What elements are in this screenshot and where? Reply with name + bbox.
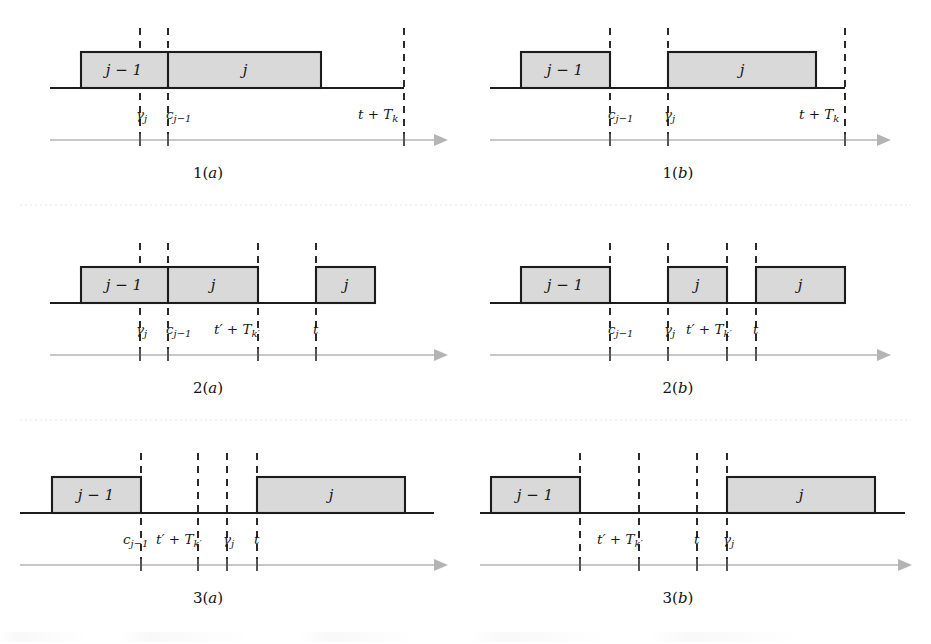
scheduling-timeline-figure: j − 1 j γj cj−1 t + Tk 1(a) j − 1 j cj−1… xyxy=(0,0,931,644)
figure-root: j − 1 j γj cj−1 t + Tk 1(a) j − 1 j cj−1… xyxy=(0,0,931,644)
tick-label-tprime-plus-Tkprime: t′ + Tk′ xyxy=(214,321,260,339)
tick-label-c-j-minus-1: cj−1 xyxy=(608,321,633,339)
panel-2a: j − 1 j j γj cj−1 t′ + Tk′ t 2(a) xyxy=(50,243,448,397)
time-axis-arrowhead xyxy=(898,559,912,571)
tick-label-gamma-j: γj xyxy=(223,531,234,549)
panel-1b: j − 1 j cj−1 γj t + Tk 1(b) xyxy=(490,28,891,182)
panel-caption-1a: 1(a) xyxy=(193,164,223,182)
tick-label-c-j-minus-1: cj−1 xyxy=(123,531,148,549)
time-axis-arrowhead xyxy=(434,134,448,146)
panel-3b: j − 1 j t′ + Tk′ t γj 3(b) xyxy=(480,453,912,607)
time-axis-arrowhead xyxy=(877,134,891,146)
tick-label-t: t xyxy=(694,531,700,547)
tick-label-gamma-j: γj xyxy=(136,106,147,124)
tick-label-gamma-j: γj xyxy=(664,106,675,124)
job-prev-label: j − 1 xyxy=(544,276,583,294)
panel-caption-3b: 3(b) xyxy=(663,589,694,607)
job-prev-label: j − 1 xyxy=(103,61,142,79)
time-axis-arrowhead xyxy=(434,559,448,571)
panel-3a: j − 1 j cj−1 t′ + Tk′ γj t 3(a) xyxy=(20,453,448,607)
panel-caption-2b: 2(b) xyxy=(663,379,694,397)
time-axis-arrowhead xyxy=(877,349,891,361)
tick-label-c-j-minus-1: cj−1 xyxy=(166,321,191,339)
tick-label-tprime-plus-Tkprime: t′ + Tk′ xyxy=(686,321,732,339)
panel-2b: j − 1 j j cj−1 γj t′ + Tk′ t 2(b) xyxy=(490,243,891,397)
job-prev-label: j − 1 xyxy=(103,276,142,294)
tick-label-tprime-plus-Tkprime: t′ + Tk′ xyxy=(156,531,202,549)
tick-label-c-j-minus-1: cj−1 xyxy=(608,106,633,124)
panel-caption-3a: 3(a) xyxy=(193,589,223,607)
tick-label-c-j-minus-1: cj−1 xyxy=(166,106,191,124)
tick-label-gamma-j: γj xyxy=(723,531,734,549)
tick-label-gamma-j: γj xyxy=(664,321,675,339)
job-prev-label: j − 1 xyxy=(544,61,583,79)
job-prev-label: j − 1 xyxy=(514,486,553,504)
tick-label-t-plus-Tk: t + Tk xyxy=(799,106,839,124)
time-axis-arrowhead xyxy=(434,349,448,361)
tick-label-t: t xyxy=(313,321,319,337)
panel-caption-1b: 1(b) xyxy=(663,164,694,182)
tick-label-t: t xyxy=(753,321,759,337)
tick-label-t-plus-Tk: t + Tk xyxy=(358,106,398,124)
job-prev-label: j − 1 xyxy=(75,486,114,504)
tick-label-gamma-j: γj xyxy=(136,321,147,339)
panel-caption-2a: 2(a) xyxy=(193,379,223,397)
panel-1a: j − 1 j γj cj−1 t + Tk 1(a) xyxy=(50,28,448,182)
tick-label-t: t xyxy=(254,531,260,547)
tick-label-tprime-plus-Tkprime: t′ + Tk′ xyxy=(597,531,643,549)
